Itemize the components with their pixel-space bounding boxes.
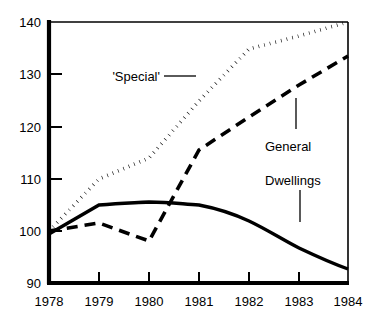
y-tick-label-110: 110 — [20, 172, 41, 187]
series-label-special: 'Special' — [112, 69, 160, 84]
y-axis-labels: 140 130 120 110 100 90 — [19, 15, 41, 291]
x-axis-labels: 1978 1979 1980 1981 1982 1983 1984 — [35, 294, 363, 309]
x-tick-label-1983: 1983 — [285, 294, 314, 309]
line-chart: 140 130 120 110 100 90 1978 1979 1980 19… — [0, 0, 374, 325]
x-tick-label-1984: 1984 — [334, 294, 363, 309]
annotation-labels: 'Special' General Dwellings — [112, 69, 321, 188]
y-tick-label-90: 90 — [27, 276, 41, 291]
series-dwellings-line — [49, 202, 348, 269]
x-tick-label-1982: 1982 — [235, 294, 264, 309]
chart-canvas: 140 130 120 110 100 90 1978 1979 1980 19… — [0, 0, 374, 325]
series-special-line — [49, 22, 348, 231]
y-tick-label-100: 100 — [19, 224, 41, 239]
y-tick-label-130: 130 — [19, 67, 41, 82]
x-tick-label-1978: 1978 — [35, 294, 64, 309]
x-tick-label-1979: 1979 — [85, 294, 114, 309]
series-label-general: General — [265, 139, 311, 154]
y-tick-label-120: 120 — [19, 120, 41, 135]
series-label-dwellings: Dwellings — [265, 173, 321, 188]
x-tick-label-1980: 1980 — [135, 294, 164, 309]
y-tick-label-140: 140 — [19, 15, 41, 30]
x-tick-label-1981: 1981 — [185, 294, 214, 309]
